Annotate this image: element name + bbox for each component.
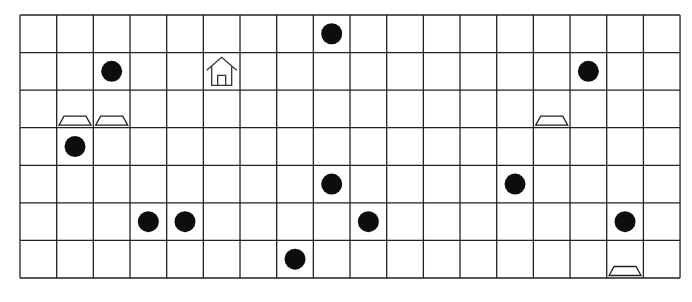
trapezoid-icon — [536, 116, 568, 125]
filled-circle-icon — [505, 174, 526, 195]
house-icon — [207, 57, 237, 85]
filled-circle-icon — [578, 61, 599, 82]
trapezoid-icon — [59, 116, 91, 125]
filled-circle-icon — [101, 61, 122, 82]
house-door — [218, 75, 226, 85]
filled-circle-icon — [65, 136, 86, 157]
trapezoid-icon — [96, 116, 128, 125]
grid-canvas — [19, 14, 681, 279]
filled-circle-icon — [615, 211, 636, 232]
filled-circle-icon — [358, 211, 379, 232]
filled-circle-icon — [175, 211, 196, 232]
trapezoid-icon — [609, 266, 641, 275]
filled-circle-icon — [321, 174, 342, 195]
grid-lines — [20, 15, 680, 278]
filled-circle-icon — [138, 211, 159, 232]
filled-circle-icon — [321, 23, 342, 44]
filled-circle-icon — [285, 249, 306, 270]
grid-diagram — [19, 14, 681, 279]
